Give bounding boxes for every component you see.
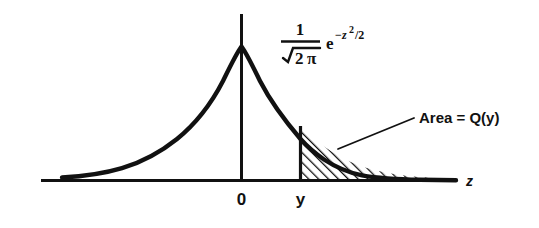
horizontal-axis-name: z — [465, 173, 473, 189]
axis-tick-label-origin: 0 — [237, 190, 246, 209]
formula-pi-symbol: π — [307, 49, 317, 68]
area-annotation-label: Area = Q(y) — [419, 109, 499, 126]
formula-numerator: 1 — [296, 20, 305, 39]
axis-tick-label-threshold: y — [296, 190, 306, 209]
formula-exponential-base: e — [326, 34, 334, 53]
formula-exponent-variable: z — [341, 28, 347, 42]
gaussian-figure-container: Area = Q(y) 0 y z 1 2 π e − z 2 — [0, 0, 539, 228]
formula-exponent-divisor: /2 — [354, 28, 364, 42]
formula-exponent-power: 2 — [349, 24, 354, 35]
formula-radicand-two: 2 — [295, 49, 304, 68]
formula-exponent-minus: − — [335, 28, 342, 42]
gaussian-curve-figure: Area = Q(y) 0 y z 1 2 π e − z 2 — [0, 0, 539, 228]
